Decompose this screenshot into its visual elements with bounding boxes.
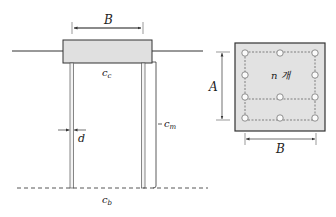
pile: [277, 50, 283, 56]
pile-group-diagram: B cc d cm cb n 개: [0, 0, 336, 217]
pile-left: [70, 63, 74, 188]
pile: [242, 115, 248, 121]
pile: [277, 115, 283, 121]
base-label: cb: [102, 194, 113, 207]
pile: [242, 72, 248, 78]
pile: [312, 115, 318, 121]
pile: [277, 94, 283, 100]
depth-label: A: [208, 80, 218, 94]
shaft-label: cm: [164, 118, 177, 131]
width-label: B: [275, 142, 285, 156]
cap-contact-label: cc: [102, 67, 112, 80]
cap-width-label: B: [103, 13, 113, 27]
elevation-view: B cc d cm cb: [12, 13, 208, 207]
pile: [312, 50, 318, 56]
diameter-label: d: [78, 132, 85, 145]
plan-view: n 개 A B: [208, 43, 325, 156]
pile-cap: [63, 40, 152, 63]
pile: [312, 94, 318, 100]
pile: [242, 50, 248, 56]
shaft-bracket: [152, 62, 156, 188]
pile-right: [142, 63, 146, 188]
pile-count-label: n 개: [271, 70, 292, 81]
pile: [312, 72, 318, 78]
pile: [242, 94, 248, 100]
